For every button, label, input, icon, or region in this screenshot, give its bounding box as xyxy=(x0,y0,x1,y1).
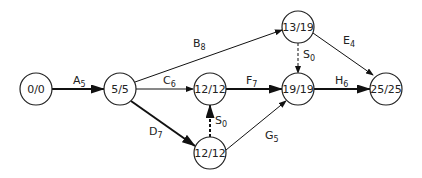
svg-text:12/12: 12/12 xyxy=(194,83,226,96)
edge-S-upper-dummy: S0 xyxy=(298,43,315,73)
node-19-19: 19/19 xyxy=(282,73,314,105)
node-25-25: 25/25 xyxy=(370,73,402,105)
edge-label-A: A5 xyxy=(73,74,86,89)
edge-label-S-upper: S0 xyxy=(303,48,315,63)
node-12-12-lower: 12/12 xyxy=(194,137,226,169)
edge-A: A5 xyxy=(52,74,104,89)
edge-label-S-lower: S0 xyxy=(215,114,227,129)
edge-label-D: D7 xyxy=(149,125,163,140)
node-12-12-upper: 12/12 xyxy=(194,73,226,105)
edge-F: F7 xyxy=(226,74,282,89)
svg-text:5/5: 5/5 xyxy=(111,83,129,96)
node-13-19: 13/19 xyxy=(282,11,314,43)
svg-text:13/19: 13/19 xyxy=(282,21,314,34)
node-0-0: 0/0 xyxy=(20,73,52,105)
edge-label-C: C6 xyxy=(163,74,176,89)
edge-label-H: H6 xyxy=(335,74,348,89)
edge-label-E: E4 xyxy=(343,34,355,49)
node-5-5: 5/5 xyxy=(104,73,136,105)
edge-G: G5 xyxy=(226,101,286,150)
edge-label-F: F7 xyxy=(246,74,257,89)
edge-D: D7 xyxy=(131,101,195,146)
svg-text:25/25: 25/25 xyxy=(370,83,402,96)
edge-C: C6 xyxy=(136,74,193,89)
svg-text:0/0: 0/0 xyxy=(27,83,45,96)
edge-E: E4 xyxy=(313,33,373,75)
svg-text:19/19: 19/19 xyxy=(282,83,314,96)
edge-label-G: G5 xyxy=(265,129,279,144)
edge-H: H6 xyxy=(314,74,370,89)
edge-label-B: B8 xyxy=(193,37,206,52)
activity-network-diagram: A5 B8 C6 D7 E4 F7 G5 H6 S0 S0 0/0 xyxy=(0,0,422,178)
edge-S-lower-dummy: S0 xyxy=(210,105,227,137)
svg-text:12/12: 12/12 xyxy=(194,147,226,160)
